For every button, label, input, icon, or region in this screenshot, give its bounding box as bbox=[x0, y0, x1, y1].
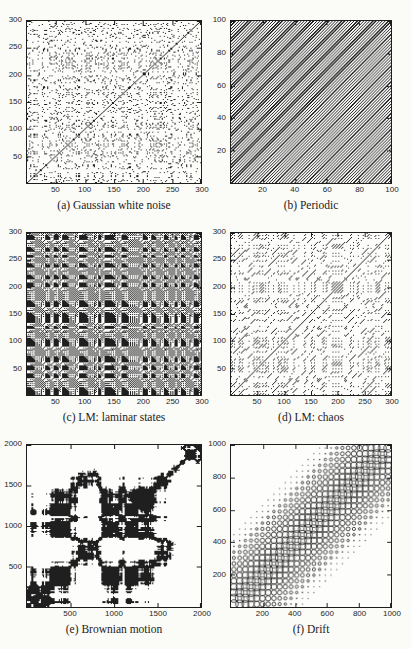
tick-label: 150 bbox=[98, 185, 130, 194]
plot-row-f: 2004006008001000 bbox=[205, 444, 411, 608]
panel-caption-a: (a) Gaussian white noise bbox=[26, 199, 202, 211]
tick-label: 600 bbox=[311, 609, 343, 618]
tick-label: 800 bbox=[213, 472, 226, 481]
plot-row-e: 500100015002000 bbox=[0, 444, 205, 608]
y-axis-tick-labels-f: 2004006008001000 bbox=[205, 444, 230, 608]
plot-canvas-c bbox=[27, 233, 201, 395]
tick-label: 40 bbox=[217, 113, 226, 122]
tick-label: 80 bbox=[217, 48, 226, 57]
tick-label: 250 bbox=[157, 397, 189, 406]
tick-label: 100 bbox=[69, 185, 101, 194]
panel-caption-b: (b) Periodic bbox=[230, 199, 392, 211]
plot-row-d: 50100150200250300 bbox=[205, 232, 411, 396]
tick-label: 600 bbox=[213, 505, 226, 514]
tick-label: 500 bbox=[54, 609, 86, 618]
tick-label: 2000 bbox=[4, 439, 22, 448]
tick-label: 40 bbox=[279, 185, 311, 194]
plot-row-a: 50100150200250300 bbox=[0, 20, 205, 184]
tick-label: 200 bbox=[213, 282, 226, 291]
tick-label: 1500 bbox=[142, 609, 174, 618]
tick-label: 1000 bbox=[98, 609, 130, 618]
tick-label: 200 bbox=[127, 397, 159, 406]
tick-label: 500 bbox=[9, 562, 22, 571]
tick-label: 80 bbox=[344, 185, 376, 194]
plot-frame-c bbox=[26, 232, 202, 396]
tick-label: 200 bbox=[9, 70, 22, 79]
panel-caption-f: (f) Drift bbox=[230, 623, 392, 635]
plot-canvas-d bbox=[231, 233, 391, 395]
tick-label: 100 bbox=[69, 397, 101, 406]
tick-label: 1000 bbox=[208, 439, 226, 448]
tick-label: 150 bbox=[9, 97, 22, 106]
plot-row-b: 20406080100 bbox=[205, 20, 411, 184]
x-axis-tick-labels-f: 2004006008001000 bbox=[230, 608, 392, 620]
y-axis-tick-labels-c: 50100150200250300 bbox=[0, 232, 26, 396]
tick-label: 50 bbox=[39, 397, 71, 406]
tick-label: 100 bbox=[9, 124, 22, 133]
tick-label: 250 bbox=[9, 254, 22, 263]
tick-label: 50 bbox=[39, 185, 71, 194]
panel-d-lm-chaos: 50100150200250300 50100150200250300 (d) … bbox=[205, 232, 411, 423]
tick-label: 20 bbox=[217, 146, 226, 155]
panel-e-brownian-motion: 500100015002000 500100015002000 (e) Brow… bbox=[0, 444, 205, 635]
plot-canvas-f bbox=[231, 445, 391, 607]
y-axis-tick-labels-e: 500100015002000 bbox=[0, 444, 26, 608]
tick-label: 400 bbox=[279, 609, 311, 618]
plot-frame-b bbox=[230, 20, 392, 184]
tick-label: 50 bbox=[13, 152, 22, 161]
plot-canvas-b bbox=[231, 21, 391, 183]
x-axis-tick-labels-c: 50100150200250300 bbox=[26, 396, 202, 408]
tick-label: 50 bbox=[217, 364, 226, 373]
panel-caption-c: (c) LM: laminar states bbox=[26, 411, 202, 423]
tick-label: 100 bbox=[9, 336, 22, 345]
tick-label: 100 bbox=[213, 15, 226, 24]
plot-row-c: 50100150200250300 bbox=[0, 232, 205, 396]
tick-label: 250 bbox=[9, 42, 22, 51]
panel-a-gaussian-white-noise: 50100150200250300 50100150200250300 (a) … bbox=[0, 20, 205, 211]
tick-label: 150 bbox=[98, 397, 130, 406]
plot-canvas-e bbox=[27, 445, 201, 607]
panel-f-drift: 2004006008001000 2004006008001000 (f) Dr… bbox=[205, 444, 411, 635]
tick-label: 20 bbox=[246, 185, 278, 194]
tick-label: 200 bbox=[127, 185, 159, 194]
panel-caption-d: (d) LM: chaos bbox=[230, 411, 392, 423]
tick-label: 1000 bbox=[376, 609, 408, 618]
y-axis-tick-labels-d: 50100150200250300 bbox=[205, 232, 230, 396]
tick-label: 200 bbox=[246, 609, 278, 618]
recurrence-plot-figure: 50100150200250300 50100150200250300 (a) … bbox=[0, 0, 411, 635]
tick-label: 200 bbox=[213, 570, 226, 579]
plot-frame-d bbox=[230, 232, 392, 396]
plot-frame-f bbox=[230, 444, 392, 608]
tick-label: 1000 bbox=[4, 521, 22, 530]
tick-label: 250 bbox=[157, 185, 189, 194]
panel-caption-e: (e) Brownian motion bbox=[26, 623, 202, 635]
y-axis-tick-labels-b: 20406080100 bbox=[205, 20, 230, 184]
panel-c-lm-laminar-states: 50100150200250300 50100150200250300 (c) … bbox=[0, 232, 205, 423]
x-axis-tick-labels-e: 500100015002000 bbox=[26, 608, 202, 620]
paper-page: { "page": { "paper_color": "#fbfbf8", "p… bbox=[0, 0, 411, 649]
tick-label: 300 bbox=[9, 227, 22, 236]
tick-label: 100 bbox=[213, 336, 226, 345]
tick-label: 300 bbox=[9, 15, 22, 24]
plot-frame-e bbox=[26, 444, 202, 608]
x-axis-tick-labels-b: 20406080100 bbox=[230, 184, 392, 196]
panel-b-periodic: 20406080100 20406080100 (b) Periodic bbox=[205, 20, 411, 211]
tick-label: 50 bbox=[13, 364, 22, 373]
tick-label: 300 bbox=[376, 397, 408, 406]
tick-label: 1500 bbox=[4, 480, 22, 489]
x-axis-tick-labels-a: 50100150200250300 bbox=[26, 184, 202, 196]
tick-label: 250 bbox=[213, 254, 226, 263]
tick-label: 800 bbox=[344, 609, 376, 618]
y-axis-tick-labels-a: 50100150200250300 bbox=[0, 20, 26, 184]
tick-label: 300 bbox=[213, 227, 226, 236]
tick-label: 400 bbox=[213, 537, 226, 546]
tick-label: 60 bbox=[311, 185, 343, 194]
plot-frame-a bbox=[26, 20, 202, 184]
tick-label: 200 bbox=[9, 282, 22, 291]
tick-label: 150 bbox=[213, 309, 226, 318]
plot-canvas-a bbox=[27, 21, 201, 183]
tick-label: 150 bbox=[9, 309, 22, 318]
tick-label: 100 bbox=[376, 185, 408, 194]
tick-label: 60 bbox=[217, 81, 226, 90]
x-axis-tick-labels-d: 50100150200250300 bbox=[230, 396, 392, 408]
